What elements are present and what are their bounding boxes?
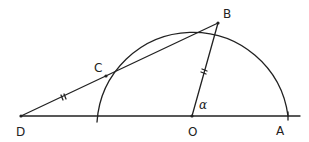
point-d xyxy=(19,114,22,117)
label-b: B xyxy=(223,7,231,21)
label-a: A xyxy=(276,124,285,138)
point-o xyxy=(190,114,193,117)
line-db xyxy=(21,23,218,116)
point-c xyxy=(104,74,107,77)
point-b xyxy=(216,21,219,24)
label-o: O xyxy=(188,125,197,139)
label-alpha: α xyxy=(199,98,207,112)
geometry-diagram: D C B O A α xyxy=(0,0,309,142)
label-c: C xyxy=(94,61,102,75)
semicircle-arc xyxy=(97,32,288,122)
label-d: D xyxy=(16,125,25,139)
